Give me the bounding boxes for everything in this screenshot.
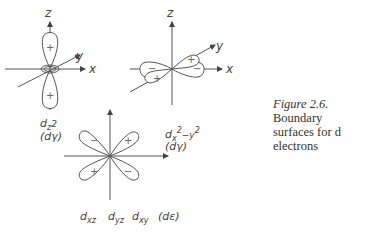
z-axis-label: z xyxy=(166,6,174,20)
dz2-group-label: (dγ) xyxy=(40,130,62,143)
y-axis-label: y xyxy=(215,39,224,53)
caption-line1: Boundary xyxy=(273,111,322,125)
dyz-label: dyz xyxy=(108,210,124,225)
lobe-sign: − xyxy=(124,166,132,177)
z-axis-label: z xyxy=(44,6,52,20)
dz2-panel xyxy=(5,22,85,110)
dx2y2-panel xyxy=(130,22,222,105)
lobe-sign: + xyxy=(153,73,161,84)
dxz-label: dxz xyxy=(80,210,96,225)
caption-line2: surfaces for d electrons xyxy=(273,125,341,153)
lobe-sign: + xyxy=(90,166,98,177)
x-axis-label: x xyxy=(88,62,97,76)
y-axis-label: y xyxy=(75,49,84,63)
de-group-label: (dε) xyxy=(158,210,180,223)
dx2y2-group-label: (dγ) xyxy=(165,140,187,153)
dxz-panel xyxy=(64,110,168,200)
lobe-sign: + xyxy=(124,135,132,146)
lobe-sign: + xyxy=(46,90,54,101)
lobe-sign: − xyxy=(90,135,98,146)
x-axis-label: x xyxy=(225,62,234,76)
lobe-sign: + xyxy=(187,54,195,65)
dxy-label: dxy xyxy=(132,210,148,225)
caption-label: Figure 2.6. xyxy=(273,97,328,111)
lobe-sign: + xyxy=(46,42,54,53)
figure-caption: Figure 2.6. Boundary surfaces for d elec… xyxy=(273,97,375,153)
